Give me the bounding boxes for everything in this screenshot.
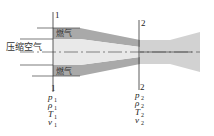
svg-text:2: 2 xyxy=(141,120,144,126)
svg-text:2: 2 xyxy=(141,103,144,109)
section-1-variables: 1 p 1 ρ 1 T 1 v 1 xyxy=(47,83,57,128)
svg-text:1: 1 xyxy=(54,105,57,111)
lower-fuel-gas-label: 燃气 xyxy=(56,66,72,76)
svg-text:1: 1 xyxy=(54,97,57,103)
upper-fuel-gas-label: 燃气 xyxy=(56,28,72,38)
svg-text:2: 2 xyxy=(141,112,144,118)
section-2-bottom-label: 2 xyxy=(140,82,145,92)
section-2-top-label: 2 xyxy=(141,18,146,28)
svg-text:1: 1 xyxy=(54,122,57,128)
compressed-air-label: 压缩空气 xyxy=(6,41,42,52)
svg-text:1: 1 xyxy=(54,114,57,120)
section-1-velocity: v xyxy=(48,117,52,127)
section-2-velocity: v xyxy=(135,115,139,125)
section-2-variables: 2 p 2 ρ 2 T 2 v 2 xyxy=(134,82,145,126)
svg-text:2: 2 xyxy=(141,95,144,101)
diagram-canvas: 1 2 燃气 燃气 压缩空气 1 p 1 ρ 1 T 1 v 1 2 p 2 ρ… xyxy=(0,0,214,136)
section-1-top-label: 1 xyxy=(55,10,60,20)
